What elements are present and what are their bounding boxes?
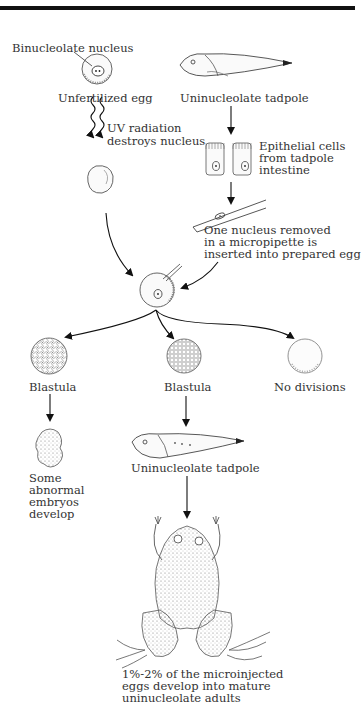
label-epithelial-3: intestine xyxy=(259,164,310,177)
blastula-left-icon xyxy=(31,338,67,374)
label-uninucleolate-tadpole-bottom: Uninucleolate tadpole xyxy=(131,462,260,475)
label-uninucleolate-tadpole-top: Uninucleolate tadpole xyxy=(180,92,309,105)
epithelial-cells-icon xyxy=(206,143,251,175)
arrow-pipette-to-recipient xyxy=(182,262,218,288)
label-result-3: uninucleolate adults xyxy=(122,692,241,705)
label-no-divisions: No divisions xyxy=(274,381,346,394)
recipient-egg-icon xyxy=(140,264,182,307)
abnormal-embryo-icon xyxy=(36,429,63,467)
label-binucleolate-nucleus: Binucleolate nucleus xyxy=(12,42,133,55)
label-uv-radiation-2: destroys nucleus xyxy=(107,135,205,148)
label-micropipette-3: inserted into prepared egg xyxy=(204,248,361,261)
branch-arrows xyxy=(66,310,293,338)
label-abnormal-4: develop xyxy=(29,508,74,521)
tadpole-bottom-icon xyxy=(132,434,244,458)
arrow-egg-to-recipient xyxy=(106,213,132,275)
adult-frog-icon xyxy=(116,516,270,668)
enucleated-egg-icon xyxy=(88,166,113,193)
label-uv-radiation-1: UV radiation xyxy=(107,122,182,135)
tadpole-top-icon xyxy=(180,54,292,76)
label-blastula-middle: Blastula xyxy=(164,381,211,394)
label-unfertilized-egg: Unfertilized egg xyxy=(58,92,153,105)
blastula-middle-icon xyxy=(167,339,201,373)
undivided-egg-icon xyxy=(288,339,322,373)
label-blastula-left: Blastula xyxy=(29,381,76,394)
unfertilized-egg-icon xyxy=(74,52,112,84)
